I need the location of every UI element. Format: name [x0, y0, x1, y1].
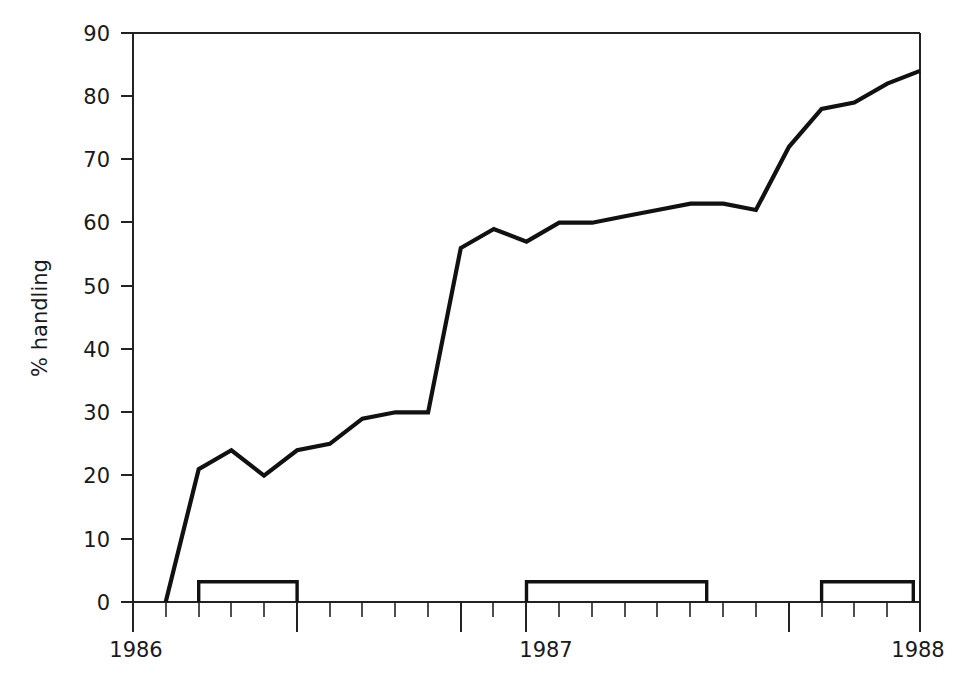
data-series-group [166, 71, 920, 602]
x-axis-major-ticks [133, 602, 920, 632]
x-axis-tick-labels: 1986 1987 1988 [109, 638, 944, 662]
y-tick-label-60: 60 [83, 211, 110, 235]
y-tick-label-80: 80 [83, 85, 110, 109]
chart-figure: 90 80 70 60 50 40 30 20 10 0 % handling [0, 0, 964, 681]
series-line-handling [166, 71, 920, 602]
y-tick-label-30: 30 [83, 401, 110, 425]
observation-period-brackets [199, 582, 914, 602]
y-axis-tick-labels: 90 80 70 60 50 40 30 20 10 0 [83, 22, 110, 615]
period-bracket-3 [822, 582, 914, 602]
y-axis-ticks [121, 33, 133, 602]
period-bracket-2 [527, 582, 707, 602]
y-tick-label-90: 90 [83, 22, 110, 46]
y-tick-label-0: 0 [97, 591, 110, 615]
y-tick-label-50: 50 [83, 275, 110, 299]
y-axis: 90 80 70 60 50 40 30 20 10 0 % handling [28, 22, 133, 615]
y-axis-title: % handling [28, 259, 52, 377]
y-tick-label-70: 70 [83, 148, 110, 172]
plot-frame [133, 33, 920, 602]
y-tick-label-20: 20 [83, 464, 110, 488]
y-tick-label-10: 10 [83, 528, 110, 552]
period-bracket-1 [199, 582, 297, 602]
x-tick-label-1986: 1986 [109, 638, 162, 662]
x-axis: 1986 1987 1988 [109, 602, 944, 662]
line-chart: 90 80 70 60 50 40 30 20 10 0 % handling [0, 0, 964, 681]
y-tick-label-40: 40 [83, 338, 110, 362]
x-tick-label-1987: 1987 [519, 638, 572, 662]
x-tick-label-1988: 1988 [891, 638, 944, 662]
